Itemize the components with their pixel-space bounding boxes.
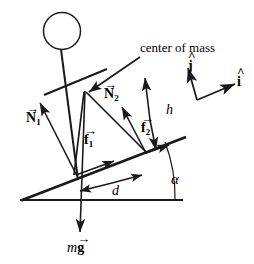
normal-2-vector-glyph: → N: [104, 87, 114, 101]
height-label: h: [166, 103, 173, 117]
distance-label: d: [112, 184, 119, 198]
unit-vector-i-label: ^ i: [237, 75, 241, 89]
friction-force-1-label: → f 1: [84, 133, 93, 149]
unit-vector-i-arrow: [197, 84, 235, 100]
friction-2-symbol: f: [141, 120, 146, 135]
friction-force-2-arrow: [146, 145, 169, 153]
center-of-mass-label: center of mass: [140, 41, 215, 54]
distance-dimension-arrow-left: [80, 183, 112, 191]
gravity-vector-glyph: → g: [77, 241, 84, 255]
physics-diagram-figure: center of mass → N 1 → N 2 → f 1 → f 2 h…: [0, 0, 254, 264]
incline-surface-line: [21, 137, 186, 201]
friction-2-subscript: 2: [146, 127, 151, 137]
height-dimension-arrow-down: [150, 120, 156, 150]
diagram-canvas: [0, 0, 254, 264]
i-symbol: i: [237, 74, 241, 89]
head-circle: [44, 13, 81, 50]
unit-vector-j-label: ^ j: [188, 59, 193, 73]
incline-angle-label: α: [171, 172, 179, 187]
friction-2-vector-glyph: → f: [141, 121, 146, 135]
normal-1-symbol: N: [26, 110, 36, 125]
friction-force-2-label: → f 2: [141, 121, 150, 137]
normal-2-symbol: N: [104, 86, 114, 101]
normal-1-subscript: 1: [36, 117, 41, 127]
distance-dimension-arrow-right: [112, 175, 142, 183]
friction-1-symbol: f: [84, 132, 89, 147]
normal-force-1-arrow: [40, 103, 77, 176]
shoulder-bar-line: [44, 69, 107, 95]
mass-symbol: m: [67, 240, 77, 255]
normal-force-1-label: → N 1: [26, 111, 41, 127]
j-hat-glyph: ^ j: [188, 59, 193, 73]
i-hat-glyph: ^ i: [237, 75, 241, 89]
j-symbol: j: [188, 58, 193, 73]
weight-label: m → g: [67, 241, 84, 255]
gravity-symbol: g: [77, 240, 84, 255]
normal-1-vector-glyph: → N: [26, 111, 36, 125]
normal-2-subscript: 2: [114, 93, 119, 103]
friction-1-subscript: 1: [89, 139, 94, 149]
height-dimension-arrow-up: [145, 78, 150, 120]
normal-force-2-label: → N 2: [104, 87, 119, 103]
friction-1-vector-glyph: → f: [84, 133, 89, 147]
